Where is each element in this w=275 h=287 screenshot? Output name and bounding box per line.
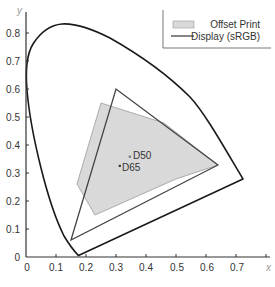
svg-text:0.6: 0.6 [200, 262, 214, 273]
chromaticity-chart: D50 D65 0 0.1 0.2 0.3 0.4 0.5 0.6 0.7 0.… [0, 0, 275, 287]
svg-text:0.6: 0.6 [6, 84, 20, 95]
svg-text:0.1: 0.1 [49, 262, 63, 273]
offset-print-swatch [173, 21, 194, 28]
svg-text:0.2: 0.2 [79, 262, 93, 273]
x-tick-labels: 0 0.1 0.2 0.3 0.4 0.5 0.6 0.7 [24, 262, 244, 273]
d50-label: D50 [133, 150, 152, 161]
svg-text:0: 0 [14, 252, 20, 263]
svg-text:0.2: 0.2 [6, 196, 20, 207]
svg-text:0.5: 0.5 [170, 262, 184, 273]
d65-label: D65 [122, 162, 141, 173]
svg-text:0.7: 0.7 [230, 262, 244, 273]
svg-text:0: 0 [24, 262, 30, 273]
legend-display-srgb: Display (sRGB) [191, 31, 260, 42]
svg-text:0.7: 0.7 [6, 56, 20, 67]
svg-text:0.4: 0.4 [139, 262, 153, 273]
x-axis-label: x [265, 262, 272, 273]
svg-text:0.3: 0.3 [109, 262, 123, 273]
legend-offset-print: Offset Print [210, 19, 260, 30]
svg-text:0.3: 0.3 [6, 168, 20, 179]
y-axis-label: y [16, 5, 23, 16]
y-tick-labels: 0 0.1 0.2 0.3 0.4 0.5 0.6 0.7 0.8 [6, 28, 20, 263]
svg-text:0.4: 0.4 [6, 140, 20, 151]
svg-text:0.8: 0.8 [6, 28, 20, 39]
svg-text:0.1: 0.1 [6, 224, 20, 235]
d65-point [119, 165, 121, 167]
legend: Offset Print Display (sRGB) [163, 9, 273, 48]
d50-point [129, 156, 131, 158]
svg-text:0.5: 0.5 [6, 112, 20, 123]
